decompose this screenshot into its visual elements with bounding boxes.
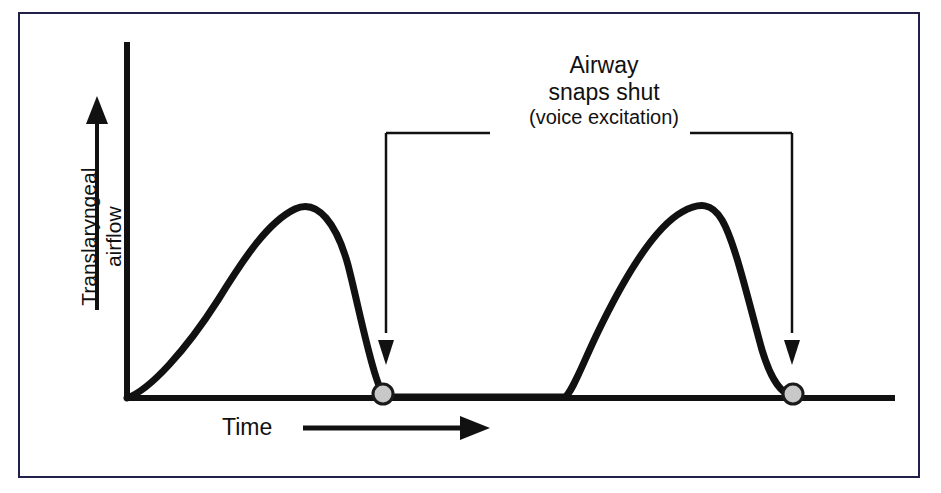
y-axis-label-line1: Translaryngeal: [77, 168, 100, 306]
y-axis-label: Translaryngeal airflow: [77, 117, 127, 357]
airflow-waveform: [127, 206, 793, 398]
closure-marker: [783, 384, 803, 404]
annotation-line-2: snaps shut: [493, 79, 715, 106]
annotation-line-3: (voice excitation): [493, 106, 715, 130]
right-arrow-icon: [303, 416, 490, 440]
annotation-label: Airway snaps shut (voice excitation): [493, 52, 715, 130]
figure-root: Translaryngeal airflow Time Airway snaps…: [0, 0, 941, 493]
annotation-line-1: Airway: [493, 52, 715, 79]
down-arrow-icon-left: [378, 340, 394, 365]
y-axis-label-line2: airflow: [102, 117, 127, 357]
plot-area: [0, 0, 941, 493]
closure-marker: [373, 384, 393, 404]
down-arrow-icon-right: [784, 340, 800, 365]
x-axis-label: Time: [222, 414, 272, 441]
